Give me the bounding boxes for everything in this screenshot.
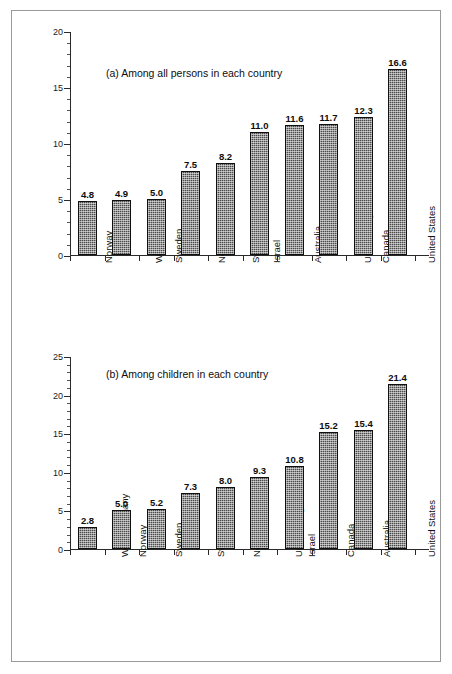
y-tick-minor [67,457,70,458]
y-tick-minor [67,66,70,67]
bar-value-label: 12.3 [354,106,373,116]
y-tick-minor [67,365,70,366]
bar-value-label: 2.8 [81,516,94,526]
y-tick-minor [67,542,70,543]
y-tick-minor [67,403,70,404]
x-tick [208,550,209,555]
bar-value-label: 9.3 [253,466,266,476]
bar-value-label: 7.5 [184,160,197,170]
y-tick-minor [67,372,70,373]
category-label: United States [426,206,436,263]
y-axis-label: 15 [53,430,63,439]
bar: 11.6Australia [285,125,304,255]
chart-b-plot-area: 05101520252.8West Germany5.0Norway5.2Swe… [70,357,415,550]
x-tick [312,256,313,261]
y-tick-minor [67,189,70,190]
y-axis-label: 10 [53,468,63,477]
category-label: Israel [271,240,281,263]
y-tick-minor [67,426,70,427]
y-axis-label: 0 [58,252,63,261]
x-tick [208,256,209,261]
y-tick-minor [67,481,70,482]
bar-value-label: 4.8 [81,190,94,200]
y-tick-minor [67,122,70,123]
y-tick [64,434,70,435]
y-tick-minor [67,222,70,223]
bar: 15.4Australia [354,430,373,549]
x-tick [381,550,382,555]
x-tick [174,256,175,261]
x-tick [381,256,382,261]
bar-value-label: 16.6 [388,58,407,68]
y-tick-minor [67,535,70,536]
y-tick-minor [67,166,70,167]
y-tick-minor [67,388,70,389]
x-tick [243,550,244,555]
x-tick [139,256,140,261]
bar: 21.4United States [388,384,407,549]
chart-a-plot-area: 051015204.8Norway4.9West Germany5.0Swede… [70,32,415,256]
y-tick-minor [67,99,70,100]
x-tick [70,550,71,555]
y-tick-minor [67,527,70,528]
y-tick-minor [67,411,70,412]
y-axis-label: 5 [58,196,63,205]
bar-value-label: 7.3 [184,482,197,492]
bar-value-label: 11.0 [251,121,269,131]
y-axis-label: 20 [53,28,63,37]
y-tick-minor [67,77,70,78]
x-tick [70,256,71,261]
y-tick-minor [67,178,70,179]
x-tick [139,550,140,555]
x-tick [415,550,416,555]
bar: 8.2Switzerland [216,163,235,255]
bar-value-label: 11.6 [286,114,304,124]
y-tick-minor [67,380,70,381]
y-tick [64,88,70,89]
y-tick-minor [67,234,70,235]
bar-value-label: 15.2 [319,421,338,431]
chart-panel-a: (a) Among all persons in each country 05… [22,18,432,343]
bar-value-label: 5.0 [115,499,128,509]
y-axis-label: 25 [53,353,63,362]
chart-a-y-axis [70,32,71,256]
x-tick [346,550,347,555]
y-axis-label: 10 [53,140,63,149]
bar: 7.5Netherlands [181,171,200,255]
y-tick [64,200,70,201]
y-tick-minor [67,465,70,466]
bar-value-label: 5.0 [150,188,163,198]
y-tick-minor [67,519,70,520]
x-tick [105,256,106,261]
y-axis-label: 0 [58,546,63,555]
y-tick-minor [67,133,70,134]
y-tick-minor [67,496,70,497]
bar: 5.0Sweden [147,199,166,255]
x-tick [174,550,175,555]
y-axis-label: 15 [53,84,63,93]
x-tick [277,550,278,555]
bar: 7.3Switzerland [181,493,200,549]
y-tick [64,32,70,33]
bar: 4.9West Germany [112,200,131,255]
bar: 9.3United Kingdom [250,477,269,549]
y-tick [64,396,70,397]
chart-panel-b: (b) Among children in each country 05101… [22,345,432,657]
y-tick [64,144,70,145]
bar: 2.8West Germany [78,527,97,549]
y-tick-minor [67,419,70,420]
figure-page: (a) Among all persons in each country 05… [0,0,452,674]
y-tick-minor [67,488,70,489]
chart-b-y-axis [70,357,71,550]
x-tick [415,256,416,261]
y-tick [64,357,70,358]
y-tick-minor [67,245,70,246]
bar: 11.0Israel [250,132,269,255]
y-tick [64,511,70,512]
x-tick [346,256,347,261]
y-tick-minor [67,54,70,55]
y-tick-minor [67,450,70,451]
y-tick-minor [67,155,70,156]
bar-value-label: 15.4 [354,419,373,429]
y-tick-minor [67,211,70,212]
